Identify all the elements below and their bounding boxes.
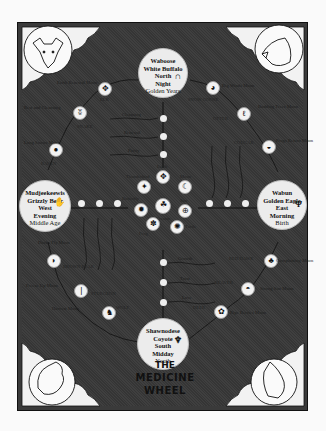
moon-label-se2: Ripe Berries Moon xyxy=(230,310,266,315)
spoke-dot xyxy=(96,200,103,207)
creator-icon: ☘ xyxy=(160,200,167,209)
spoke-dot xyxy=(160,279,167,286)
turtle-node: ✺ xyxy=(170,220,184,234)
moon-label-ne3: Frogs Return Moon xyxy=(276,138,313,143)
coyote-plant-icon: ♆ xyxy=(174,337,182,345)
frog-node: ✽ xyxy=(146,217,160,231)
brown-bear-label: BROWN BEAR xyxy=(63,264,94,269)
deer-label: DEER xyxy=(193,305,205,310)
beaver-node: ◓ xyxy=(241,282,255,296)
moon-node: ☾ xyxy=(178,180,192,194)
thunderbird-label: Thunderbird xyxy=(126,174,150,179)
raven-label: RAVEN xyxy=(41,161,56,166)
spoke-dot xyxy=(160,299,167,306)
wolf-label: WOLF xyxy=(116,305,129,310)
spoke-dot xyxy=(224,200,231,207)
elk-node: ✥ xyxy=(98,82,112,96)
south-time: Midday xyxy=(138,350,188,358)
moon-label-e1: Cornplanting Moon xyxy=(276,258,313,263)
red-hawk-icon: ♣ xyxy=(268,256,273,265)
elk-icon: ✥ xyxy=(102,84,109,93)
butterfly-node: ✹ xyxy=(134,203,148,217)
deer-icon: ✿ xyxy=(218,307,225,316)
north-spirit-name: Waboose xyxy=(139,57,187,65)
moon-icon: ☾ xyxy=(182,182,189,191)
earth-icon: ✥ xyxy=(160,172,167,181)
south-spirit-name: Shawnodese xyxy=(138,327,188,335)
west-time: Evening xyxy=(20,212,70,220)
south-path-label-2: Trust xyxy=(180,276,190,281)
north-path-label-1: Cleansing xyxy=(122,112,141,117)
wolf-node: ♞ xyxy=(102,306,116,320)
south-path-label-3: Love xyxy=(182,295,192,300)
frog-label: Frog xyxy=(139,231,148,236)
raven-icon: ● xyxy=(54,145,59,154)
west-direction-circle: Mudjeekeewis Grizzly Bear West Evening M… xyxy=(19,180,71,232)
sun-icon: ⊕ xyxy=(182,206,189,215)
moon-label-sw1: Ducks Fly Moon xyxy=(38,240,70,245)
butterfly-icon: ✹ xyxy=(138,205,145,214)
moon-label-nw2: Rest and Cleansing xyxy=(24,105,61,110)
spoke-dot xyxy=(160,259,167,266)
west-life-stage: Middle Age xyxy=(20,219,70,227)
sturgeon-label: STURGEON xyxy=(91,291,116,296)
otter-label: OTTER xyxy=(213,116,228,121)
beaver-label: BEAVER xyxy=(215,280,233,285)
spoke-dot xyxy=(160,115,167,122)
moon-label-nw1: Earth Renewal Moon xyxy=(57,80,97,85)
bear-paw-icon: ✋ xyxy=(54,199,65,207)
title-medicine: MEDICINE xyxy=(130,372,200,383)
thunderbird-node: ✦ xyxy=(137,180,151,194)
brown-bear-node: ◗ xyxy=(47,254,61,268)
cougar-node: ◒ xyxy=(262,140,276,154)
spoke-dot xyxy=(206,200,213,207)
north-life-stage: Golden Years xyxy=(139,87,187,95)
snow-goose-node: ◕ xyxy=(206,81,220,95)
deer-node: ✿ xyxy=(214,305,228,319)
spoke-dot xyxy=(114,200,121,207)
south-path-label-1: Growth xyxy=(178,256,192,261)
earth-label: Earth xyxy=(157,164,167,169)
east-life-stage: Birth xyxy=(258,219,306,227)
snake-icon: ʬ xyxy=(78,108,82,117)
east-time: Morning xyxy=(258,212,306,220)
title-wheel: WHEEL xyxy=(130,385,200,396)
otter-node: ℓ xyxy=(237,107,251,121)
sturgeon-icon: ❘ xyxy=(78,286,85,295)
moon-label: Moon xyxy=(180,174,191,179)
snake-node: ʬ xyxy=(73,106,87,120)
moon-label-s1: Harvest Moon xyxy=(52,306,79,311)
elk-label: ELK xyxy=(100,97,109,102)
spoke-dot xyxy=(242,200,249,207)
brown-bear-icon: ◗ xyxy=(52,256,57,265)
otter-icon: ℓ xyxy=(242,109,246,118)
cougar-label: COUGAR xyxy=(234,140,254,145)
turtle-icon: ✺ xyxy=(174,222,181,231)
sun-node: ⊕ xyxy=(178,204,192,218)
east-spirit-name: Wabun xyxy=(258,189,306,197)
raven-node: ● xyxy=(49,143,63,157)
snow-goose-icon: ◕ xyxy=(211,83,216,92)
snake-label: SNAKE xyxy=(77,124,93,129)
thunderbird-icon: ✦ xyxy=(141,182,148,191)
eagle-feather-icon: Ψ xyxy=(295,201,302,209)
moon-label-sw2: Freeze Up Moon xyxy=(26,283,58,288)
north-path-label-3: Purity xyxy=(128,148,140,153)
beaver-icon: ◓ xyxy=(246,284,251,293)
frog-icon: ✽ xyxy=(150,219,157,228)
sun-label: Sun xyxy=(180,198,187,203)
earth-node: ✥ xyxy=(156,170,170,184)
moon-label-w1: Long Snows Moon xyxy=(24,140,60,145)
buffalo-icon: ∩ xyxy=(175,73,181,81)
moon-label-se1: Strong Sun Moon xyxy=(260,286,294,291)
turtle-label: Turtle xyxy=(185,224,196,229)
spoke-dot xyxy=(160,151,167,158)
spoke-dot xyxy=(160,133,167,140)
north-path-label-2: Renewal xyxy=(124,130,140,135)
wolf-icon: ♞ xyxy=(106,308,113,317)
north-direction-circle: Waboose White Buffalo North Night Golden… xyxy=(138,48,188,98)
sturgeon-node: ❘ xyxy=(74,284,88,298)
east-direction-circle: Wabun Golden Eagle East Morning Birth Ψ xyxy=(257,180,307,230)
title-the: THE xyxy=(130,360,200,370)
spoke-dot xyxy=(78,200,85,207)
